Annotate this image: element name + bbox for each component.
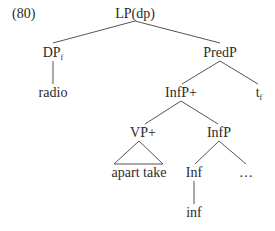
edge-lp-predp (135, 21, 220, 43)
edge-infp-ellipsis (219, 141, 246, 164)
edge-lp-dp (53, 21, 135, 43)
node-lp-dp: LP(dp) (115, 6, 155, 22)
node-vp-plus: VP+ (130, 125, 156, 141)
node-radio: radio (39, 85, 68, 101)
node-ellipsis: … (239, 165, 253, 181)
node-trace-subscript: f (260, 93, 263, 102)
edge-infp-plus-infp (181, 101, 218, 124)
edge-infp-inf (195, 141, 219, 164)
node-inf-leaf: inf (186, 205, 202, 221)
node-dp-subscript: f (61, 53, 64, 62)
node-dp-label: DP (43, 45, 61, 60)
vp-plus-triangle (114, 141, 163, 164)
node-predp: PredP (203, 45, 236, 61)
tree-edges (0, 0, 275, 231)
edge-predp-infp-plus (182, 61, 220, 84)
node-dp: DPf (43, 45, 64, 66)
node-infp-plus: InfP+ (165, 85, 197, 101)
example-number: (80) (12, 6, 35, 22)
node-trace: tf (256, 85, 263, 106)
node-apart-take: apart take (112, 165, 167, 181)
node-inf-head: Inf (186, 165, 202, 181)
edge-infp-plus-vp-plus (145, 101, 181, 124)
edge-predp-trace (220, 61, 258, 84)
node-infp: InfP (207, 125, 231, 141)
